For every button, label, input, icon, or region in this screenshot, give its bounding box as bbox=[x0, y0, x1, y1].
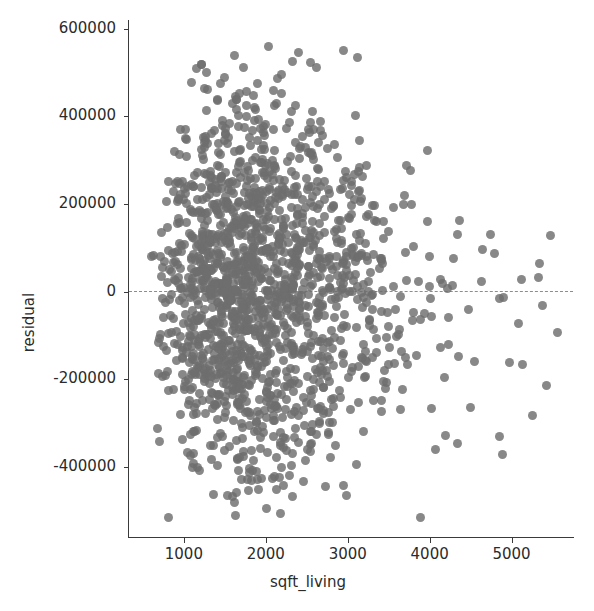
scatter-point bbox=[315, 417, 324, 426]
scatter-point bbox=[339, 481, 348, 490]
scatter-point bbox=[215, 390, 224, 399]
scatter-point bbox=[372, 348, 381, 357]
scatter-point bbox=[176, 410, 185, 419]
scatter-point bbox=[153, 424, 162, 433]
scatter-point bbox=[186, 280, 195, 289]
scatter-point bbox=[262, 504, 271, 513]
scatter-point bbox=[251, 269, 260, 278]
scatter-point bbox=[322, 257, 331, 266]
scatter-point bbox=[346, 405, 355, 414]
scatter-point bbox=[222, 279, 231, 288]
scatter-point bbox=[147, 252, 156, 261]
scatter-point bbox=[249, 456, 258, 465]
scatter-point bbox=[250, 183, 259, 192]
scatter-point bbox=[262, 388, 271, 397]
x-axis-spine bbox=[128, 537, 574, 538]
x-tick-label-text: 3000 bbox=[329, 545, 367, 563]
scatter-point bbox=[313, 204, 322, 213]
scatter-point bbox=[178, 435, 187, 444]
scatter-point bbox=[174, 214, 183, 223]
scatter-point bbox=[431, 445, 440, 454]
scatter-point bbox=[272, 99, 281, 108]
scatter-point bbox=[312, 259, 321, 268]
scatter-point bbox=[270, 215, 279, 224]
scatter-point bbox=[505, 358, 514, 367]
scatter-point bbox=[300, 421, 309, 430]
scatter-point bbox=[340, 310, 349, 319]
scatter-point bbox=[390, 359, 399, 368]
scatter-point bbox=[192, 311, 201, 320]
scatter-point bbox=[244, 315, 253, 324]
scatter-point bbox=[466, 403, 475, 412]
scatter-point bbox=[319, 344, 328, 353]
scatter-point bbox=[372, 334, 381, 343]
scatter-point bbox=[205, 395, 214, 404]
scatter-point bbox=[200, 305, 209, 314]
scatter-point bbox=[320, 311, 329, 320]
scatter-point bbox=[351, 111, 360, 120]
scatter-point bbox=[407, 200, 416, 209]
scatter-point bbox=[339, 321, 348, 330]
scatter-point bbox=[318, 334, 327, 343]
y-tick-mark bbox=[124, 292, 129, 293]
scatter-point bbox=[518, 360, 527, 369]
scatter-point bbox=[436, 343, 445, 352]
scatter-point bbox=[273, 74, 282, 83]
scatter-point bbox=[266, 224, 275, 233]
scatter-point bbox=[352, 460, 361, 469]
scatter-point bbox=[453, 230, 462, 239]
scatter-point bbox=[304, 262, 313, 271]
scatter-point bbox=[293, 271, 302, 280]
scatter-point bbox=[199, 349, 208, 358]
plot-area bbox=[129, 20, 573, 537]
scatter-point bbox=[260, 406, 269, 415]
scatter-point bbox=[329, 202, 338, 211]
scatter-point bbox=[396, 292, 405, 301]
x-tick-mark bbox=[266, 538, 267, 543]
scatter-point bbox=[256, 433, 265, 442]
scatter-point bbox=[444, 340, 453, 349]
scatter-point bbox=[345, 190, 354, 199]
scatter-point bbox=[226, 375, 235, 384]
scatter-point bbox=[301, 456, 310, 465]
scatter-point bbox=[347, 367, 356, 376]
scatter-point bbox=[216, 79, 225, 88]
scatter-point bbox=[250, 103, 259, 112]
scatter-point bbox=[228, 99, 237, 108]
scatter-point bbox=[260, 264, 269, 273]
scatter-point bbox=[308, 354, 317, 363]
scatter-point bbox=[318, 366, 327, 375]
scatter-point bbox=[209, 250, 218, 259]
scatter-point bbox=[375, 264, 384, 273]
scatter-point bbox=[301, 226, 310, 235]
scatter-point bbox=[342, 252, 351, 261]
scatter-point bbox=[213, 96, 222, 105]
y-tick-label-text: -400000 bbox=[53, 457, 116, 475]
scatter-point bbox=[356, 229, 365, 238]
scatter-point bbox=[180, 382, 189, 391]
x-tick-mark bbox=[348, 538, 349, 543]
scatter-point bbox=[285, 471, 294, 480]
scatter-point bbox=[368, 290, 377, 299]
scatter-point bbox=[320, 228, 329, 237]
scatter-point bbox=[316, 117, 325, 126]
scatter-point bbox=[276, 509, 285, 518]
x-tick-label-text: 1000 bbox=[165, 545, 203, 563]
scatter-point bbox=[279, 481, 288, 490]
scatter-point bbox=[402, 276, 411, 285]
scatter-point bbox=[345, 287, 354, 296]
scatter-point bbox=[330, 313, 339, 322]
scatter-point bbox=[279, 433, 288, 442]
scatter-point bbox=[188, 352, 197, 361]
scatter-point bbox=[272, 378, 281, 387]
scatter-point bbox=[321, 482, 330, 491]
scatter-point bbox=[232, 248, 241, 257]
scatter-point bbox=[339, 279, 348, 288]
scatter-point bbox=[256, 199, 265, 208]
scatter-point bbox=[219, 319, 228, 328]
scatter-point bbox=[175, 239, 184, 248]
scatter-point bbox=[314, 404, 323, 413]
scatter-point bbox=[336, 393, 345, 402]
scatter-point bbox=[295, 154, 304, 163]
y-tick-label-text: 200000 bbox=[59, 194, 116, 212]
